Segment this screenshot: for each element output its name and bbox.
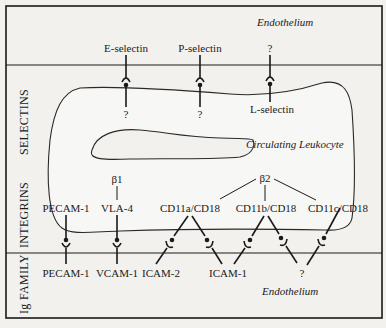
label-vcam1: VCAM-1 [96,267,138,279]
label-e-selectin: E-selectin [104,42,148,54]
section-label-integrins: INTEGRINS [17,182,31,248]
receptor-cup-icon [113,243,121,247]
label-p-selectin: P-selectin [178,42,222,54]
ligand-dot-icon [322,236,327,241]
label-unknown-ligand: ? [300,267,305,279]
region-endothelium-top: Endothelium [256,16,313,28]
receptor-cup-icon [266,77,274,81]
receptor-cup-icon [122,78,130,82]
label-beta1: β1 [111,173,122,185]
label-cd11a-cd18: CD11a/CD18 [160,202,221,214]
label-l-selectin: L-selectin [250,103,294,115]
ligand-dot-icon [279,236,284,241]
region-leukocyte: Circulating Leukocyte [246,138,344,150]
ligand-dot-icon [248,238,253,243]
section-label-selectins: SELECTINS [17,89,31,155]
label-vla4: VLA-4 [101,202,133,214]
section-label-ig-family: Ig FAMILY [17,254,31,314]
receptor-cup-icon [62,243,70,247]
label-e-selectin-ligand: ? [124,108,129,120]
ligand-dot-icon [205,238,210,243]
ligand-dot-icon [170,238,175,243]
ligand-dot-icon [115,238,120,243]
label-p-selectin-ligand: ? [198,108,203,120]
label-l-selectin-ligand: ? [268,42,273,54]
receptor-cup-icon [196,78,204,82]
label-icam1: ICAM-1 [209,267,247,279]
label-pecam1-endothelium: PECAM-1 [42,267,89,279]
ligand-dot-icon [64,238,69,243]
label-icam2: ICAM-2 [142,267,180,279]
label-cd11b-cd18: CD11b/CD18 [236,202,297,214]
label-beta2: β2 [259,172,270,184]
region-endothelium-bottom: Endothelium [261,285,318,297]
label-pecam1-leukocyte: PECAM-1 [42,202,89,214]
adhesion-molecule-diagram: SELECTINS INTEGRINS Ig FAMILY Endotheliu… [0,0,386,328]
